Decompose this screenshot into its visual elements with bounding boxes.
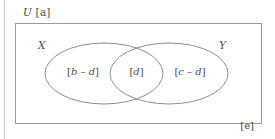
set-label-y: Y [219,39,226,51]
region-label-outside: [e] [240,120,254,131]
region-label-left-only: [b – d] [57,66,109,77]
region-label-right-only: [c – d] [163,66,217,77]
set-label-x: X [38,39,45,51]
region-label-intersection: [d] [112,66,161,77]
venn-diagram-figure: U [a] X Y [b – d] [d] [c – d] [e] [0,0,275,139]
